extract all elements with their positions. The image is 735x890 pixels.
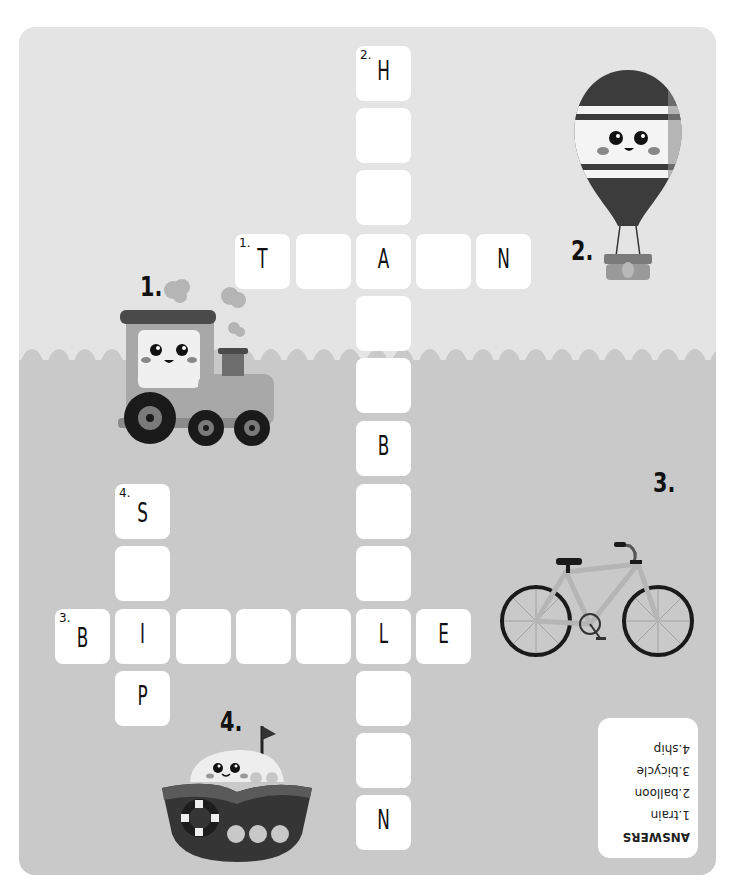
cell-letter: S bbox=[123, 498, 163, 528]
crossword-cell-2down-13[interactable]: N bbox=[356, 795, 411, 850]
answer-item: 2.balloon bbox=[598, 782, 690, 804]
crossword-cell-2down-6[interactable] bbox=[356, 358, 411, 413]
cell-letter: A bbox=[364, 244, 404, 274]
crossword-cell-4down-4[interactable]: P bbox=[115, 671, 170, 726]
crossword-cell-3across-3[interactable] bbox=[176, 609, 231, 664]
train-icon bbox=[118, 278, 278, 448]
crossword-cell-1across-4[interactable] bbox=[416, 234, 471, 289]
crossword-cell-2down-12[interactable] bbox=[356, 733, 411, 788]
crossword-cell-2down-4[interactable]: A bbox=[356, 234, 411, 289]
crossword-cell-3across-1[interactable]: 3.B bbox=[55, 609, 110, 664]
crossword-cell-3across-7[interactable]: E bbox=[416, 609, 471, 664]
crossword-cell-2down-10[interactable]: L bbox=[356, 609, 411, 664]
answer-item: 3.bicycle bbox=[598, 760, 690, 782]
crossword-cell-2down-2[interactable] bbox=[356, 108, 411, 163]
cell-letter: H bbox=[364, 56, 404, 86]
crossword-cell-3across-2[interactable]: I bbox=[115, 609, 170, 664]
cell-letter: P bbox=[123, 681, 163, 711]
bicycle-clue-label: 3. bbox=[653, 468, 675, 498]
cell-letter: B bbox=[364, 431, 404, 461]
crossword-cell-3across-5[interactable] bbox=[296, 609, 351, 664]
cell-letter: I bbox=[123, 619, 163, 649]
cell-letter: T bbox=[243, 244, 283, 274]
cell-letter: N bbox=[364, 805, 404, 835]
cell-letter: L bbox=[364, 619, 404, 649]
answers-title: ANSWERS bbox=[598, 826, 690, 848]
cell-letter: E bbox=[424, 619, 464, 649]
crossword-cell-3across-4[interactable] bbox=[236, 609, 291, 664]
crossword-cell-1across-2[interactable] bbox=[296, 234, 351, 289]
ship-icon bbox=[162, 722, 312, 864]
crossword-cell-2down-11[interactable] bbox=[356, 671, 411, 726]
cell-letter: N bbox=[484, 244, 524, 274]
bicycle-icon bbox=[498, 538, 690, 660]
crossword-cell-2down-3[interactable] bbox=[356, 170, 411, 225]
answer-item: 1.train bbox=[598, 804, 690, 826]
crossword-cell-2down-7[interactable]: B bbox=[356, 421, 411, 476]
crossword-cell-2down-5[interactable] bbox=[356, 296, 411, 351]
crossword-cell-2down-9[interactable] bbox=[356, 546, 411, 601]
answer-item: 4.ship bbox=[598, 738, 690, 760]
answers-box: ANSWERS 1.train 2.balloon 3.bicycle 4.sh… bbox=[598, 718, 698, 858]
crossword-cell-2down-8[interactable] bbox=[356, 484, 411, 539]
cell-letter: B bbox=[63, 623, 103, 653]
crossword-cell-1across-1[interactable]: 1.T bbox=[235, 234, 290, 289]
crossword-cell-1across-5[interactable]: N bbox=[476, 234, 531, 289]
balloon-clue-label: 2. bbox=[571, 236, 593, 266]
crossword-cell-4down-1[interactable]: 4.S bbox=[115, 484, 170, 539]
crossword-cell-2down-1[interactable]: 2.H bbox=[356, 46, 411, 101]
crossword-cell-4down-2[interactable] bbox=[115, 546, 170, 601]
